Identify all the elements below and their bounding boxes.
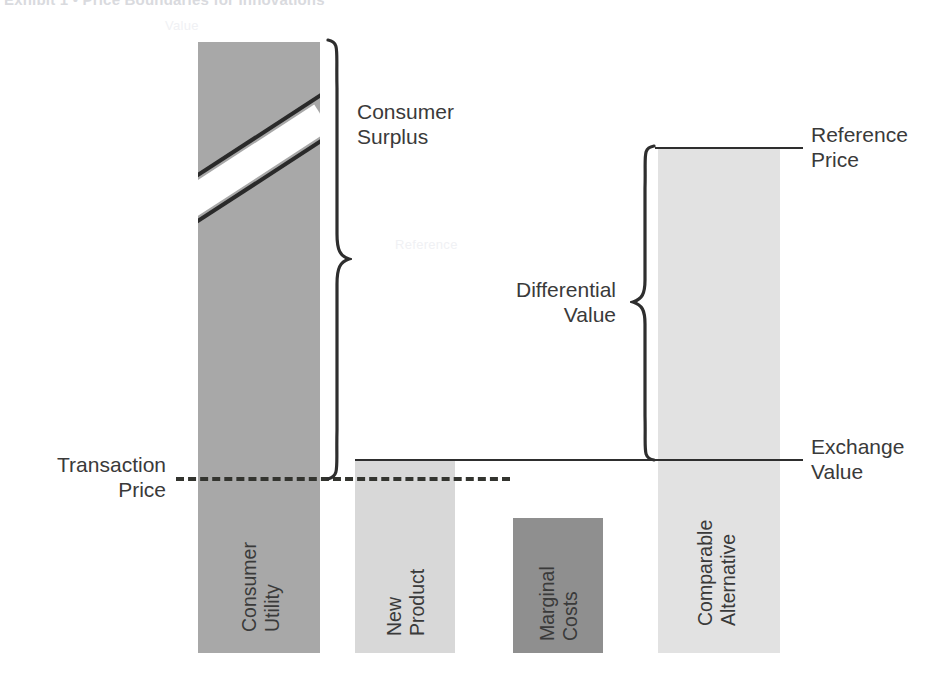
bar-label-line1: Marginal (536, 566, 559, 641)
bar-label-marginal-costs: Marginal Costs (536, 566, 582, 641)
scan-ghost-artifact: Value (165, 18, 199, 33)
bar-consumer-utility: Consumer Utility (198, 42, 320, 653)
bar-label-comparable-alternative: Comparable Alternative (694, 520, 740, 626)
bar-label-line2: Utility (261, 542, 284, 632)
reference-price-line2: Price (811, 147, 908, 172)
bar-comparable-alternative: Comparable Alternative (658, 148, 780, 653)
transaction-price-label: Transaction Price (0, 452, 166, 502)
consumer-surplus-label: Consumer Surplus (357, 99, 454, 149)
transaction-price-line2: Price (0, 477, 166, 502)
reference-price-label: Reference Price (811, 122, 908, 172)
consumer-surplus-brace (322, 38, 352, 482)
reference-price-line1: Reference (811, 122, 908, 147)
exhibit-title: Exhibit 1 • Price Boundaries for Innovat… (4, 0, 325, 8)
transaction-price-line1: Transaction (0, 452, 166, 477)
bar-label-line1: Comparable (694, 520, 717, 626)
exchange-value-line2: Value (811, 459, 904, 484)
bar-label-line2: Costs (559, 566, 582, 641)
differential-value-line1: Differential (430, 277, 616, 302)
bar-label-line2: Product (406, 569, 429, 636)
differential-value-brace (630, 144, 660, 462)
exchange-value-line (355, 459, 803, 461)
bar-label-new-product: New Product (383, 569, 429, 636)
bar-label-line1: Consumer (238, 542, 261, 632)
exchange-value-line1: Exchange (811, 434, 904, 459)
scan-ghost-artifact: Reference (395, 237, 458, 252)
exhibit-diagram: Exhibit 1 • Price Boundaries for Innovat… (0, 0, 944, 682)
bar-marginal-costs: Marginal Costs (513, 518, 603, 653)
consumer-surplus-line1: Consumer (357, 99, 454, 124)
exchange-value-label: Exchange Value (811, 434, 904, 484)
bar-label-consumer-utility: Consumer Utility (238, 542, 284, 632)
differential-value-line2: Value (430, 302, 616, 327)
bar-label-line1: New (383, 569, 406, 636)
reference-price-line (655, 147, 803, 149)
bar-new-product: New Product (355, 461, 455, 653)
differential-value-label: Differential Value (430, 277, 616, 327)
consumer-surplus-line2: Surplus (357, 124, 454, 149)
bar-label-line2: Alternative (717, 520, 740, 626)
